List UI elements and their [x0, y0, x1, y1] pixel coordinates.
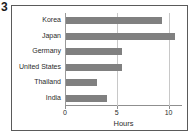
- category-label: United States: [19, 62, 61, 71]
- bar-row: United States: [65, 60, 182, 76]
- bar: [66, 48, 122, 55]
- bar: [66, 33, 175, 40]
- figure-container: 3 0510 KoreaJapanGermanyUnited StatesTha…: [0, 0, 196, 137]
- bar-row: Japan: [65, 29, 182, 45]
- bar-row: India: [65, 91, 182, 107]
- plot-area: 0510 KoreaJapanGermanyUnited StatesThail…: [65, 13, 182, 106]
- x-tick-label: 0: [63, 109, 67, 117]
- figure-index-label: 3: [1, 1, 8, 13]
- category-label: India: [46, 93, 61, 102]
- category-label: Korea: [42, 15, 61, 24]
- category-label: Japan: [42, 31, 61, 40]
- bar: [66, 17, 162, 24]
- x-tick-label: 5: [115, 109, 119, 117]
- bar-row: Thailand: [65, 75, 182, 91]
- bar: [66, 64, 122, 71]
- chart-frame: 0510 KoreaJapanGermanyUnited StatesThail…: [11, 5, 188, 131]
- x-tick-label: 10: [165, 109, 173, 117]
- bar: [66, 79, 97, 86]
- x-axis-title: Hours: [65, 119, 182, 128]
- bar-row: Germany: [65, 44, 182, 60]
- category-label: Thailand: [34, 77, 61, 86]
- bar: [66, 95, 107, 102]
- category-label: Germany: [32, 46, 61, 55]
- bar-row: Korea: [65, 13, 182, 29]
